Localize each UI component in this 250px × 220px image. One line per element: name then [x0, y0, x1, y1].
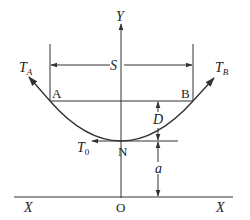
- ta-sub: A: [26, 67, 33, 77]
- span-label: S: [110, 58, 117, 73]
- x-axis-left-label: X: [23, 200, 33, 215]
- tb-label: TB: [215, 60, 229, 77]
- y-axis-label: Y: [116, 9, 126, 24]
- t0-label: T0: [77, 140, 90, 157]
- point-a-label: A: [52, 86, 62, 101]
- point-n-label: N: [118, 144, 128, 159]
- sag-label: D: [152, 112, 163, 127]
- x-axis-right-label: X: [215, 200, 225, 215]
- origin-label: O: [116, 200, 125, 215]
- height-label: a: [155, 161, 162, 176]
- ta-arrow: [29, 77, 50, 101]
- t0-sub: 0: [85, 147, 90, 157]
- point-b-label: B: [181, 86, 190, 101]
- catenary-diagram: Y S TA TB T0 A B N D a X X O: [0, 0, 250, 220]
- tb-sub: B: [223, 67, 229, 77]
- tb-arrow: [193, 78, 214, 101]
- ta-label: TA: [19, 60, 33, 77]
